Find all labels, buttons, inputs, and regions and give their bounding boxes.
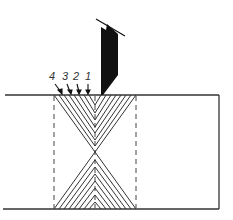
pass-label-2: 2 [72,70,79,82]
pass-label-3: 3 [62,70,69,82]
electrode-tool-icon [96,19,125,95]
weld-diagram: 4 3 2 1 [0,0,233,220]
lower-passes [54,152,136,209]
pass-label-1: 1 [85,70,91,82]
pass-label-4: 4 [49,70,55,82]
plate-outline [3,95,219,209]
pass-labels: 4 3 2 1 [49,70,91,82]
pass-arrows [55,84,90,94]
